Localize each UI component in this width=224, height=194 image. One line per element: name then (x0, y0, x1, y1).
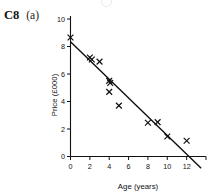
scatter-chart: 024681012 0246810 Age (years) Price (£00… (0, 0, 224, 194)
x-tick-label: 0 (69, 162, 73, 171)
y-tick-label: 0 (61, 152, 65, 161)
figure-root: C8 (a) 024681012 0246810 Age (years) Pri… (0, 0, 224, 194)
data-point (184, 138, 190, 144)
y-tick-label: 4 (61, 97, 65, 106)
y-tick-label: 8 (61, 42, 65, 51)
x-axis-title: Age (years) (118, 182, 159, 191)
x-tick-label: 4 (107, 162, 111, 171)
x-tick-label: 8 (146, 162, 150, 171)
y-tick-label: 6 (61, 70, 65, 79)
data-point (145, 120, 151, 126)
x-axis-ticks: 024681012 (69, 157, 207, 171)
y-tick-label: 2 (61, 125, 65, 134)
y-axis-title: Price (£000) (50, 73, 59, 116)
x-tick-label: 2 (88, 162, 92, 171)
data-point (155, 119, 161, 125)
chart-axes (71, 16, 207, 157)
data-point (106, 89, 112, 95)
data-point-markers (68, 35, 190, 144)
data-point (116, 103, 122, 109)
x-tick-label: 12 (183, 162, 191, 171)
y-axis-ticks: 0246810 (57, 15, 71, 162)
data-point (97, 59, 103, 65)
x-tick-label: 6 (127, 162, 131, 171)
x-tick-label: 10 (163, 162, 171, 171)
y-tick-label: 10 (57, 15, 65, 24)
